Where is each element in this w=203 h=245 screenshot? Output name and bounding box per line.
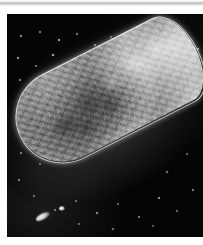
page-margin-left [0, 7, 7, 245]
page-margin-bottom [0, 237, 203, 245]
micrograph-page [0, 0, 203, 245]
scanner-shadow-band [0, 0, 203, 7]
specimen [7, 14, 203, 237]
bright-dot-lower-left [59, 206, 65, 211]
micrograph-plate [7, 14, 203, 237]
